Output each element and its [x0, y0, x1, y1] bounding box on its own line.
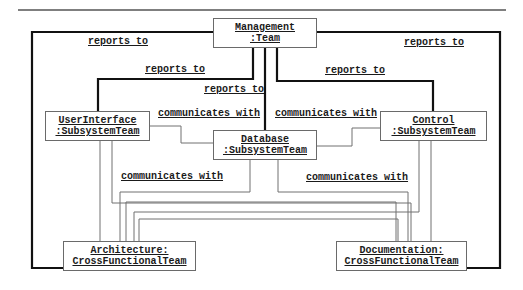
- link-reports-to-userinterface: [98, 48, 253, 111]
- object-name: Database: [214, 134, 316, 145]
- label-communicates-to-architecture: communicates with: [121, 171, 223, 182]
- object-control-subsystemteam[interactable]: Control :SubsystemTeam: [380, 111, 487, 141]
- object-class: :SubsystemTeam: [214, 145, 316, 156]
- label-reports-to-database: reports to: [204, 84, 264, 95]
- link-architecture-documentation: [126, 202, 396, 241]
- object-documentation-crossfunctionalteam[interactable]: Documentation: CrossFunctionalTeam: [336, 241, 467, 271]
- object-class: :Team: [214, 33, 316, 44]
- object-architecture-crossfunctionalteam[interactable]: Architecture: CrossFunctionalTeam: [63, 241, 196, 271]
- label-communicates-to-documentation: communicates with: [306, 172, 408, 183]
- label-reports-to-userinterface: reports to: [145, 64, 205, 75]
- link-architecture-documentation-2: [139, 219, 398, 241]
- object-class: :SubsystemTeam: [381, 126, 486, 137]
- object-name: Architecture:: [64, 245, 195, 256]
- object-class: :SubsystemTeam: [46, 126, 149, 137]
- label-reports-to-control: reports to: [325, 65, 385, 76]
- link-ui-database: [150, 126, 213, 143]
- link-database-control: [317, 128, 380, 146]
- object-name: UserInterface: [46, 115, 149, 126]
- object-database-subsystemteam[interactable]: Database :SubsystemTeam: [213, 130, 317, 160]
- label-reports-to-architecture: reports to: [88, 36, 148, 47]
- diagram-canvas: Management :Team UserInterface :Subsyste…: [0, 0, 523, 290]
- label-communicates-database-control: communicates with: [275, 108, 377, 119]
- object-name: Management: [214, 22, 316, 33]
- object-name: Control: [381, 115, 486, 126]
- label-communicates-ui-database: communicates with: [158, 108, 260, 119]
- object-management-team[interactable]: Management :Team: [213, 18, 317, 48]
- object-class: CrossFunctionalTeam: [64, 256, 195, 267]
- object-name: Documentation:: [337, 245, 466, 256]
- label-reports-to-documentation: reports to: [404, 37, 464, 48]
- link-reports-to-control: [277, 48, 433, 111]
- object-class: CrossFunctionalTeam: [337, 256, 466, 267]
- object-userinterface-subsystemteam[interactable]: UserInterface :SubsystemTeam: [45, 111, 150, 141]
